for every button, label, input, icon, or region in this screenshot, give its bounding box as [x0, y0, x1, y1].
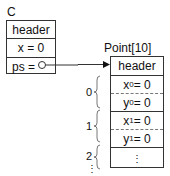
element-0-x: x0 = 0: [111, 75, 163, 93]
brace-icon: [94, 76, 100, 108]
arrowhead-icon: [103, 61, 110, 68]
index-2: 2: [86, 150, 92, 162]
brace-icon: [94, 110, 100, 142]
more-ellipsis: ⋮: [87, 163, 97, 174]
pointer-origin-icon: [39, 62, 46, 69]
array-label: Point[10]: [104, 41, 151, 55]
element-0-y: y0 = 0: [111, 93, 163, 111]
element-1-y: y1 = 0: [111, 129, 163, 147]
index-0: 0: [86, 86, 92, 98]
element-1-x: x1 = 0: [111, 111, 163, 129]
element-2: ⋮: [111, 147, 163, 168]
index-1: 1: [86, 120, 92, 132]
array-box: header x0 = 0 y0 = 0 x1 = 0 y1 = 0 ⋮: [110, 56, 164, 168]
array-header: header: [111, 57, 163, 75]
